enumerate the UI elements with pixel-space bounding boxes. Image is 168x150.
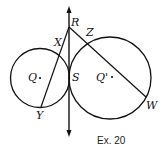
geometry-diagram: R Z X Q S Q' Y W Ex. 20: [0, 0, 168, 150]
label-w: W: [146, 100, 157, 111]
label-x: X: [54, 37, 62, 48]
label-y: Y: [36, 110, 43, 121]
arrow-down-icon: [67, 130, 72, 137]
label-s: S: [72, 72, 80, 83]
label-r: R: [71, 17, 79, 28]
circle-q-prime: [69, 37, 151, 119]
arrow-up-icon: [67, 6, 72, 13]
caption: Ex. 20: [97, 136, 125, 146]
diagram-canvas: [0, 0, 168, 150]
point-q-prime-dot: [111, 76, 113, 78]
label-q-prime: Q': [96, 72, 108, 83]
label-z: Z: [86, 27, 94, 38]
point-q-dot: [39, 77, 41, 79]
label-q: Q: [28, 72, 37, 83]
